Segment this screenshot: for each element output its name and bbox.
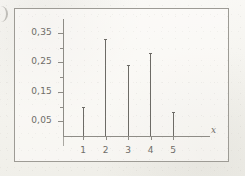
spike-top-cap xyxy=(149,53,152,54)
x-axis-tick-label: 2 xyxy=(98,145,114,155)
y-axis-lower-stub xyxy=(63,137,64,146)
x-axis-tick-label: 3 xyxy=(120,145,136,155)
spike-top-cap xyxy=(104,39,107,40)
x-axis-tick xyxy=(83,136,84,140)
spike-bar xyxy=(105,39,106,136)
y-axis-minor-tick xyxy=(60,48,64,49)
spike-top-cap xyxy=(172,112,175,113)
y-axis-major-tick xyxy=(58,62,64,63)
spike-bar xyxy=(83,107,84,137)
y-axis-minor-tick xyxy=(60,107,64,108)
y-axis-minor-tick xyxy=(60,77,64,78)
y-axis-tick-label: 0,25 xyxy=(18,56,52,66)
spike-bar xyxy=(150,53,151,136)
y-axis-major-tick xyxy=(58,33,64,34)
x-axis-tick xyxy=(106,136,107,140)
spike-bar xyxy=(173,112,174,136)
y-axis-tick-label: 0,35 xyxy=(18,27,52,37)
x-axis-tick-label: 5 xyxy=(165,145,181,155)
y-axis-line xyxy=(63,19,64,144)
spike-top-cap xyxy=(82,107,85,108)
y-axis-tick-label: 0,15 xyxy=(18,86,52,96)
plot-area: 0,350,250,150,05 12345 x xyxy=(15,9,228,161)
scanned-page: 0,350,250,150,05 12345 x xyxy=(0,0,245,176)
y-axis-major-tick xyxy=(58,121,64,122)
y-axis-major-tick xyxy=(58,92,64,93)
x-axis-tick-label: 4 xyxy=(143,145,159,155)
y-axis-tick-label: 0,05 xyxy=(18,115,52,125)
scan-edge-mark-icon xyxy=(0,6,8,22)
x-axis-tick xyxy=(128,136,129,140)
x-axis-line xyxy=(63,136,210,137)
spike-bar xyxy=(128,65,129,136)
x-axis-label: x xyxy=(211,125,216,135)
x-axis-tick xyxy=(151,136,152,140)
spike-top-cap xyxy=(127,65,130,66)
x-axis-tick-label: 1 xyxy=(75,145,91,155)
figure-frame: 0,350,250,150,05 12345 x xyxy=(14,8,229,162)
x-axis-tick xyxy=(173,136,174,140)
